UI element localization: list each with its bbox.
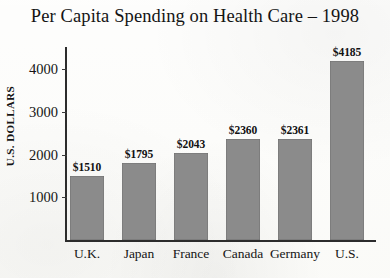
y-tick-label: 3000 [12, 105, 58, 120]
y-axis-title: U.S. DOLLARS [4, 72, 16, 180]
x-tick-label-us: U.S. [315, 246, 379, 262]
bar-japan [122, 163, 156, 240]
y-tick-label: 2000 [12, 148, 58, 163]
bar-group: $4185 [330, 48, 364, 240]
bar-us [330, 61, 364, 240]
bar-group: $1510 [70, 48, 104, 240]
bar-value-label: $4185 [321, 46, 373, 58]
bar-france [174, 153, 208, 240]
bar-value-label: $2361 [269, 124, 321, 136]
bar-chart-figure: Per Capita Spending on Health Care – 199… [0, 0, 390, 278]
y-tick-label: 1000 [12, 190, 58, 205]
plot-area: $1510$1795$2043$2360$2361$4185 [66, 48, 375, 240]
bar-group: $2361 [278, 48, 312, 240]
bar-value-label: $1510 [61, 161, 113, 173]
y-tick-label: 4000 [12, 62, 58, 77]
chart-title: Per Capita Spending on Health Care – 199… [0, 6, 390, 27]
bar-canada [226, 139, 260, 240]
bar-group: $1795 [122, 48, 156, 240]
x-axis-line [65, 240, 376, 242]
bar-uk [70, 176, 104, 240]
bar-value-label: $2360 [217, 124, 269, 136]
bar-value-label: $1795 [113, 148, 165, 160]
bar-group: $2043 [174, 48, 208, 240]
bar-value-label: $2043 [165, 138, 217, 150]
bar-group: $2360 [226, 48, 260, 240]
bar-germany [278, 139, 312, 240]
